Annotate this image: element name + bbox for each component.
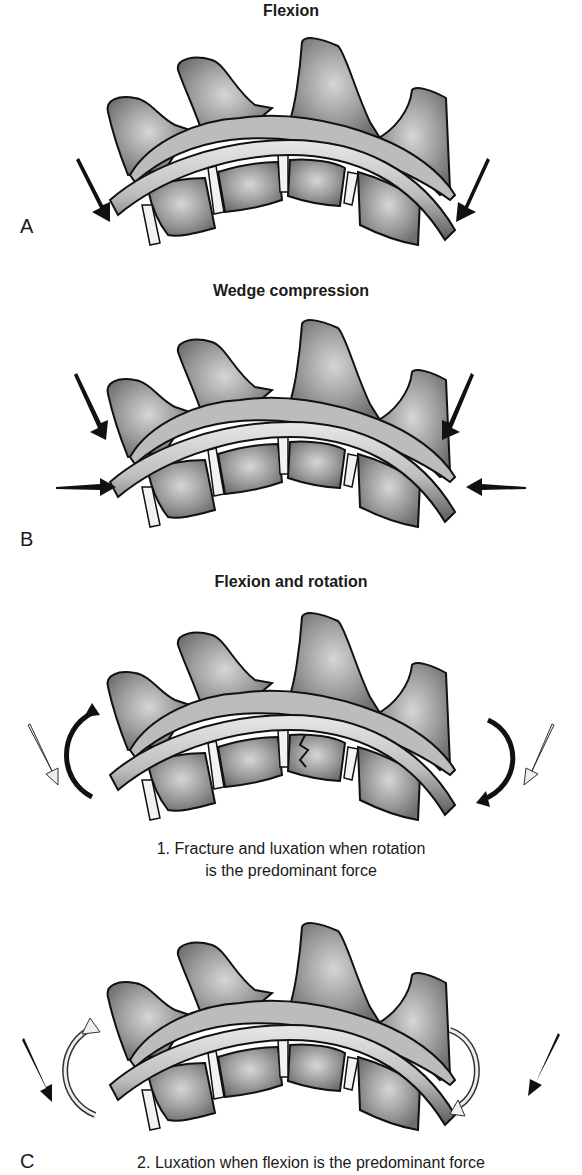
caption-line: 2. Luxation when flexion is the predomin…: [20, 1152, 582, 1174]
spine-illustration-wedge-compression: [0, 260, 582, 560]
panel-letter: A: [20, 215, 33, 238]
panel-c1-flexion-rotation: Flexion and rotation 1. Fracture and lux…: [0, 560, 582, 890]
panel-b-wedge-compression: Wedge compression B: [0, 260, 582, 560]
spine-illustration-flexion-rotation-fracture: [0, 575, 582, 835]
panel-letter: B: [20, 528, 33, 551]
spine-illustration-flexion: [0, 0, 582, 260]
spine-illustration-flexion-luxation: [0, 890, 582, 1150]
panel-a-flexion: Flexion A: [0, 0, 582, 260]
panel-c2-flexion-luxation: C 2. Luxation when flexion is the predom…: [0, 890, 582, 1175]
caption-line: 1. Fracture and luxation when rotation: [0, 838, 582, 860]
caption-line: is the predominant force: [0, 860, 582, 882]
